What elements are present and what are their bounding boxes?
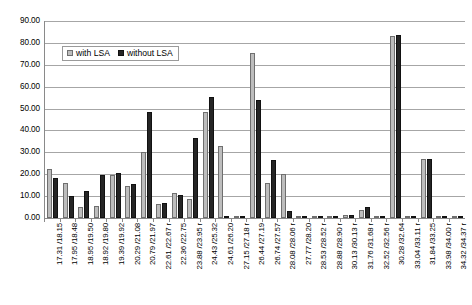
bar-group — [185, 21, 201, 218]
x-tick — [402, 218, 418, 222]
bar-group — [403, 21, 419, 218]
bar-with-lsa — [187, 199, 192, 218]
bar-without-lsa — [271, 160, 276, 218]
bar-group — [372, 21, 388, 218]
bar-without-lsa — [116, 173, 121, 218]
bar-without-lsa — [396, 35, 401, 218]
bar-without-lsa — [100, 175, 105, 218]
x-label-slot: 30.13 /30.13 r — [340, 223, 356, 303]
bar-with-lsa — [390, 36, 395, 218]
bar-group — [232, 21, 248, 218]
x-label-slot: 17.31 /18.15 — [44, 223, 60, 303]
x-axis-ticks — [44, 218, 464, 222]
bar-with-lsa — [141, 152, 146, 218]
x-tick — [231, 218, 247, 222]
bar-without-lsa — [209, 97, 214, 218]
bar-with-lsa — [359, 210, 364, 218]
x-label-slot: 30.28 /32.64 — [386, 223, 402, 303]
x-tick — [91, 218, 107, 222]
bar-group — [387, 21, 403, 218]
bar-group — [356, 21, 372, 218]
x-tick — [246, 218, 262, 222]
x-label-slot: 28.53 /28.52 r — [309, 223, 325, 303]
bar-with-lsa — [110, 175, 115, 218]
bar-with-lsa — [63, 183, 68, 218]
y-tick-label: 60.00 — [20, 83, 40, 91]
y-tick-label: 90.00 — [20, 17, 40, 25]
bar-group — [341, 21, 357, 218]
x-tick — [433, 218, 449, 222]
bar-without-lsa — [84, 191, 89, 218]
x-label-slot: 26.74 /27.57 — [262, 223, 278, 303]
bar-with-lsa — [47, 169, 52, 218]
legend-swatch-icon — [67, 50, 73, 56]
y-tick-label: 10.00 — [20, 192, 40, 200]
x-label-slot: 31.84 /33.25 — [418, 223, 434, 303]
x-tick — [75, 218, 91, 222]
bar-group — [419, 21, 435, 218]
bar-without-lsa — [256, 100, 261, 218]
x-axis: 17.31 /18.1517.95 /18.4818.95 /19.5018.9… — [44, 223, 464, 303]
bar-with-lsa — [156, 204, 161, 218]
x-label-slot: 26.44 /27.19 — [246, 223, 262, 303]
x-tick — [324, 218, 340, 222]
x-tick — [371, 218, 387, 222]
x-label-slot: 24.61 /26.20 — [215, 223, 231, 303]
x-tick — [355, 218, 371, 222]
bar-with-lsa — [281, 174, 286, 218]
chart-legend: with LSA without LSA — [62, 46, 179, 61]
x-tick — [277, 218, 293, 222]
bar-without-lsa — [193, 138, 198, 218]
x-tick — [418, 218, 434, 222]
y-tick-label: 80.00 — [20, 39, 40, 47]
x-tick — [106, 218, 122, 222]
x-label-slot: 32.52 /32.56 r — [371, 223, 387, 303]
x-tick-label: 34.32 /34.37 r — [460, 223, 468, 270]
x-tick — [340, 218, 356, 222]
x-label-slot: 20.79 /21.97 — [137, 223, 153, 303]
bar-group — [434, 21, 450, 218]
y-tick-label: 40.00 — [20, 126, 40, 134]
y-tick-label: 30.00 — [20, 148, 40, 156]
legend-item-with-lsa: with LSA — [67, 49, 110, 58]
x-tick — [293, 218, 309, 222]
x-tick — [169, 218, 185, 222]
bar-with-lsa — [250, 53, 255, 218]
legend-label: without LSA — [127, 49, 173, 58]
x-label-slot: 22.36 /22.75 — [169, 223, 185, 303]
bar-without-lsa — [69, 196, 74, 218]
x-label-slot: 18.95 /19.50 — [75, 223, 91, 303]
bar-with-lsa — [218, 146, 223, 218]
x-label-slot: 24.43 /25.32 — [200, 223, 216, 303]
bar-group — [45, 21, 61, 218]
bar-group — [263, 21, 279, 218]
x-label-slot: 27.15 /27.18 r — [231, 223, 247, 303]
bar-with-lsa — [203, 112, 208, 218]
x-tick — [200, 218, 216, 222]
x-tick — [309, 218, 325, 222]
bar-group — [325, 21, 341, 218]
x-label-slot: 31.76 /31.68 r — [355, 223, 371, 303]
x-label-slot: 20.29 /21.08 — [122, 223, 138, 303]
bar-chart: 90.0080.0070.0060.0050.0040.0030.0020.00… — [0, 0, 472, 305]
bar-with-lsa — [421, 159, 426, 218]
x-tick — [44, 218, 60, 222]
x-tick — [60, 218, 76, 222]
bar-without-lsa — [162, 203, 167, 218]
x-label-slot: 33.04 /33.11 r — [402, 223, 418, 303]
x-label-slot: 22.61 /22.67 r — [153, 223, 169, 303]
x-label-slot: 33.98 /34.00 r — [433, 223, 449, 303]
bar-with-lsa — [172, 193, 177, 218]
x-tick — [153, 218, 169, 222]
bar-without-lsa — [131, 184, 136, 218]
x-tick — [262, 218, 278, 222]
x-tick — [122, 218, 138, 222]
y-tick-label: 50.00 — [20, 104, 40, 112]
bar-group — [294, 21, 310, 218]
legend-item-without-lsa: without LSA — [118, 49, 173, 58]
x-label-slot: 27.77 /28.20 — [293, 223, 309, 303]
bar-group — [201, 21, 217, 218]
legend-swatch-icon — [118, 50, 124, 56]
x-tick — [386, 218, 402, 222]
legend-label: with LSA — [76, 49, 110, 58]
